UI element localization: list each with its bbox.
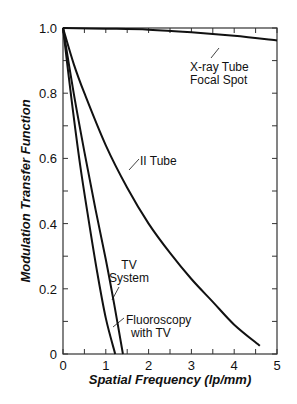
leader-xray bbox=[211, 48, 219, 58]
annotation-fluoro-line1: Fluoroscopy bbox=[126, 313, 191, 327]
y-tick-label: 0.4 bbox=[39, 217, 57, 232]
curve-x-ray-tube-focal-spot bbox=[63, 28, 277, 40]
mtf-chart: 01234500.20.40.60.81.0 Spatial Frequency… bbox=[0, 0, 297, 404]
y-tick-label: 0 bbox=[50, 347, 57, 362]
x-tick-label: 4 bbox=[231, 358, 238, 373]
x-tick-label: 5 bbox=[273, 358, 280, 373]
annotation-xray-line2: Focal Spot bbox=[190, 73, 248, 87]
x-tick-label: 0 bbox=[59, 358, 66, 373]
x-tick-label: 2 bbox=[145, 358, 152, 373]
y-tick-label: 1.0 bbox=[39, 21, 57, 36]
y-tick-label: 0.2 bbox=[39, 282, 57, 297]
annotation-tv-line2: System bbox=[109, 271, 149, 285]
annotation-tv-line1: TV bbox=[121, 258, 136, 272]
annotation-ii-tube: II Tube bbox=[140, 154, 177, 168]
curve-tv-system bbox=[63, 28, 123, 354]
annotation-fluoro-line2: with TV bbox=[130, 326, 171, 340]
y-axis-title: Modulation Transfer Function bbox=[18, 99, 33, 282]
y-tick-label: 0.6 bbox=[39, 151, 57, 166]
leader-ii-tube bbox=[129, 159, 139, 170]
y-tick-label: 0.8 bbox=[39, 86, 57, 101]
x-tick-label: 1 bbox=[102, 358, 109, 373]
x-axis-title: Spatial Frequency (lp/mm) bbox=[89, 372, 252, 387]
annotation-xray-line1: X-ray Tube bbox=[190, 60, 249, 74]
x-tick-label: 3 bbox=[188, 358, 195, 373]
